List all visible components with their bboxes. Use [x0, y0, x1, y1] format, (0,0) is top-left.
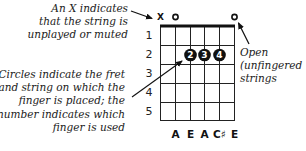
note-label: E: [227, 128, 243, 140]
nut: [160, 25, 235, 28]
fret-number: 5: [143, 106, 155, 118]
finger-number: 2: [186, 50, 196, 60]
note-label: C♯: [212, 128, 228, 140]
finger-number: 3: [200, 50, 210, 60]
open-string-icon: [173, 14, 178, 19]
fret-number: 1: [143, 30, 155, 42]
note-label: A: [168, 128, 184, 140]
arrow-to-open-icon: [239, 23, 250, 44]
strings: [161, 26, 235, 121]
arrow-to-finger-icon: [132, 61, 182, 97]
fret-number: 3: [143, 68, 155, 80]
open-string-icon: [232, 14, 237, 19]
fret-number: 4: [143, 87, 155, 99]
arrow-to-muted-icon: [131, 11, 152, 19]
note-label: A: [197, 128, 213, 140]
finger-number: 4: [215, 50, 225, 60]
muted-string-icon: X: [156, 12, 166, 22]
fret-number: 2: [143, 49, 155, 61]
